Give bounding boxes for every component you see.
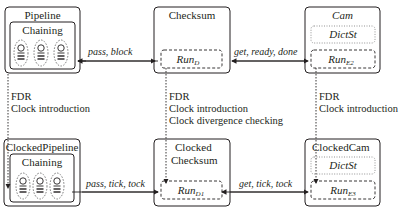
worker-icon [50, 173, 64, 199]
transform-pipeline-clock: Clock introduction [11, 103, 91, 114]
clocked-checksum-box: Clocked Checksum RunD1 [154, 139, 230, 206]
pipeline-title: Pipeline [24, 9, 60, 21]
run-e3-label: RunE3 [329, 184, 356, 198]
edge-label-pass-block: pass, block [87, 46, 133, 57]
transform-pipeline-fdr: FDR [11, 91, 31, 102]
clocked-pipeline-box: ClockedPipeline Chaining [4, 139, 80, 206]
clocked-pipeline-title: ClockedPipeline [6, 141, 79, 153]
cam-title: Cam [332, 9, 353, 21]
transform-checksum-clock: Clock introduction [169, 103, 249, 114]
clocked-checksum-title-2: Checksum [171, 154, 218, 166]
cam-box: Cam DictSt RunE2 [305, 7, 380, 73]
worker-icon [54, 40, 68, 66]
edge-label-get-ready-done: get, ready, done [234, 46, 298, 57]
transform-cam-clock: Clock introduction [319, 103, 399, 114]
process-diagram: Pipeline Chaining Checksum RunD Cam Dict… [0, 0, 406, 211]
chaining-label: Chaining [22, 156, 63, 168]
dictst-label: DictSt [328, 159, 357, 171]
edge-label-pass-tick-tock: pass, tick, tock [85, 178, 145, 189]
worker-icon [14, 40, 28, 66]
checksum-title: Checksum [169, 9, 216, 21]
transform-cam-fdr: FDR [319, 91, 339, 102]
run-d-label: RunD [176, 53, 200, 67]
run-d1-label: RunD1 [177, 184, 204, 198]
worker-icon [34, 40, 48, 66]
checksum-box: Checksum RunD [154, 7, 230, 73]
clocked-cam-title: ClockedCam [312, 141, 370, 153]
transform-checksum-divergence: Clock divergence checking [169, 115, 284, 126]
transform-checksum-fdr: FDR [169, 91, 189, 102]
run-e2-label: RunE2 [327, 53, 354, 67]
clocked-cam-box: ClockedCam DictSt RunE3 [305, 139, 380, 206]
edge-label-get-tick-tock: get, tick, tock [239, 178, 293, 189]
worker-icon [16, 173, 30, 199]
pipeline-box: Pipeline Chaining [5, 7, 80, 73]
chaining-label: Chaining [22, 24, 63, 36]
worker-icon [33, 173, 47, 199]
clocked-checksum-title-1: Clocked [175, 141, 212, 153]
dictst-label: DictSt [328, 28, 357, 40]
